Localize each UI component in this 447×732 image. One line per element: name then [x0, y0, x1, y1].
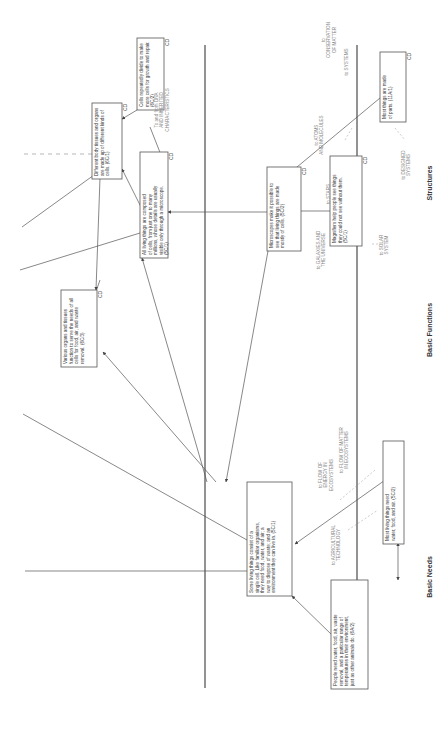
edge-offpage-3 [23, 414, 247, 540]
connection-label-line: CONSERVATION [326, 22, 331, 58]
cd-code-label: CD [164, 38, 170, 46]
concept-text-line: Different body tissues and organs [94, 107, 99, 176]
concept-text-line: they need food, water, and air; a [260, 527, 265, 593]
connection-label-line: to SOLAR [379, 234, 384, 255]
connection-label-line: CHARACTERISTICS [165, 88, 170, 131]
cd-code-label: CD [97, 290, 103, 298]
connection-label-line: IN ECOSYSTEMS [344, 431, 349, 469]
concept-node: Most living things needwater, food, and … [383, 441, 404, 544]
connection-label-line: AND MOLECULES [319, 115, 324, 154]
connection-label-line: ENERGY IN [323, 462, 328, 487]
concept-text-line: Microscopes make it possible to [269, 182, 274, 248]
strand-connection-label: toCONSERVATIONOF MATTER [321, 22, 337, 58]
connection-label-line: to SYSTEMS [344, 48, 349, 75]
concept-text-line: environment they can live in. (5C/1) [271, 520, 276, 593]
edge-n8-n3 [142, 258, 207, 482]
concept-text-line: water, food, and air. (5C/2) [391, 486, 396, 541]
concept-node: All living things are composedof cells, … [140, 152, 174, 258]
concept-node: Magnifiers help people see thingsthey co… [330, 156, 368, 246]
concept-text-line: just as other animals do. (6A/2) [350, 622, 355, 687]
connection-label-line: AND INHERITED [159, 91, 164, 127]
concept-text-line: way to dispose of waste; and an [266, 527, 271, 593]
edge-n3-n2 [150, 127, 161, 155]
edge-n9-n8 [295, 478, 388, 544]
strand-connection-label: to SYSTEMS [344, 48, 349, 75]
connection-label-line: to FLOW OF MATTER [339, 426, 344, 473]
cd-code-label: CD [362, 156, 368, 164]
strand-connection-label: to GALAXIES ANDTHE UNIVERSE [316, 230, 326, 269]
strand-connection-label: To and from DNAAND INHERITEDCHARACTERIST… [154, 88, 170, 131]
concept-text-line: function to serve the needs of all [69, 298, 74, 364]
edge-n4-n8 [226, 251, 268, 482]
strand-connection-label: to STARS [326, 184, 331, 204]
concept-node: Different body tissues and organsare mad… [92, 103, 128, 179]
concept-text-line: see that living things are made [275, 185, 280, 248]
strand-connection-label: to AGRICULTURALTECHNOLOGY [331, 525, 341, 565]
concept-text-line: visible only through a microscope. [159, 186, 164, 255]
concept-node: Various organs and tissuesfunction to se… [61, 290, 103, 367]
cd-code-label: CD [168, 152, 174, 160]
cd-code-label: CD [122, 103, 128, 111]
concept-node: Some living things consist of asingle ce… [247, 482, 292, 596]
connection-label-line: to FLOW OF [318, 462, 323, 488]
concept-text-line: mostly of cells. (5C/2) [280, 203, 285, 248]
band-label-basic-needs: Basic Needs [426, 556, 433, 598]
concept-text-line: of parts. (11A/1) [388, 86, 393, 119]
strand-connection-label: to FLOW OFENERGY INECOSYSTEMS [318, 459, 334, 491]
strand-map-diagram: Structures Basic Functions Basic Needs D… [0, 0, 447, 732]
connection-label-line: to [321, 38, 326, 42]
node-layer: Different body tissues and organsare mad… [61, 38, 412, 689]
cd-code-label: CD [301, 167, 307, 175]
connection-label-line: To and from DNA [154, 91, 159, 127]
band-label-structures: Structures [426, 165, 433, 200]
concept-text-line: of cells, from just one to many [148, 193, 153, 255]
concept-text-line: removal. (6C/3) [80, 332, 85, 364]
edge-offpage-1 [22, 175, 94, 227]
concept-node: Microscopes make it possible tosee that … [267, 167, 307, 251]
concept-node: Most things are madeof parts. (11A/1)CD [380, 52, 412, 122]
edge-n1-n7 [96, 178, 100, 290]
cd-code-label: CD [406, 52, 412, 60]
concept-node: People need water, food, air, wasteremov… [331, 580, 368, 689]
concept-text-line: Some living things consist of a [249, 531, 254, 593]
concept-text-line: temperatures in their environment, [344, 616, 349, 686]
strand-connection-label: to SOLARSYSTEM [379, 234, 389, 255]
connection-label-line: to STARS [326, 184, 331, 204]
concept-text-line: removal, and a particular range of [339, 617, 344, 686]
concept-text-line: People need water, food, air, waste [333, 614, 338, 686]
band-label-basic-functions: Basic Functions [426, 303, 433, 357]
concept-text-line: cells. (6C/1) [105, 151, 110, 176]
concept-text-line: All living things are composed [142, 194, 147, 255]
connection-label-line: to GALAXIES AND [316, 230, 321, 269]
strand-connection-label: to DESIGNEDSYSTEMS [401, 150, 411, 180]
concept-text-line: cells for food, air, and waste [74, 307, 79, 364]
conn-dash-c4 [345, 128, 352, 140]
connection-label-line: to ATOMS [314, 125, 319, 146]
concept-text-line: Most living things need [385, 494, 390, 541]
connection-label-line: to DESIGNED [401, 150, 406, 180]
concept-text-line: Most things are made [382, 74, 387, 119]
concept-text: Most living things needwater, food, and … [385, 486, 396, 541]
connection-label-line: SYSTEM [384, 235, 389, 254]
concept-text: People need water, food, air, wasteremov… [333, 614, 355, 687]
concept-text-line: Magnifiers help people see things [332, 174, 337, 243]
connection-label-line: ECOSYSTEMS [329, 459, 334, 491]
edge-offpage-2 [20, 233, 140, 270]
strand-connection-label: to FLOW OF MATTERIN ECOSYSTEMS [339, 426, 349, 473]
conn-dash-c6 [395, 128, 405, 140]
connection-label-line: OF MATTER [332, 26, 337, 53]
connection-label-line: THE UNIVERSE [321, 233, 326, 267]
concept-text-line: single cell. Like familiar organisms, [255, 522, 260, 593]
concept-text-line: more cells for growth and repair. [145, 41, 150, 107]
concept-text-line: Various organs and tissues [63, 308, 68, 364]
connection-label-line: SYSTEMS [406, 154, 411, 176]
concept-text-line: are made up of different kinds of [100, 109, 105, 176]
concept-text-line: (5C/1) [343, 230, 348, 243]
edge-n8-n7 [103, 352, 216, 482]
concept-text-line: millions, whose details are usually [153, 185, 158, 255]
connection-label-line: TECHNOLOGY [336, 529, 341, 561]
edge-n10-n8 [292, 596, 333, 636]
concept-text-line: Cells repeatedly divide to make [139, 43, 144, 107]
strand-connection-label: to ATOMSAND MOLECULES [314, 115, 324, 154]
connection-label-line: to AGRICULTURAL [331, 525, 336, 565]
